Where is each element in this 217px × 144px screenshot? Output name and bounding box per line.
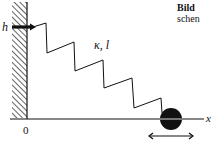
double-arrow-icon — [149, 133, 193, 139]
label-height: h — [2, 20, 8, 34]
zigzag-chain — [33, 23, 162, 113]
label-chain: κ, l — [94, 38, 110, 52]
wall — [12, 2, 27, 119]
label-axis: x — [205, 112, 211, 124]
physics-diagram: h κ, l 0 x — [0, 0, 217, 144]
ball — [160, 108, 182, 130]
label-origin: 0 — [23, 124, 29, 136]
